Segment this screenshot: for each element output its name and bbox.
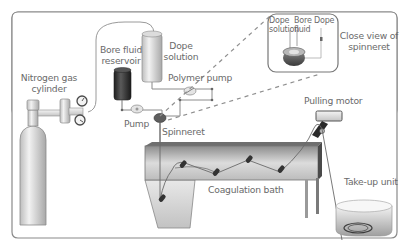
label-nitrogen-line1: Nitrogen gas [14,72,84,83]
bore-pump [131,105,143,113]
label-dope-solution: Dope solution [160,40,202,62]
label-dope-line1: Dope [160,40,202,51]
label-take-up-unit: Take-up unit [344,176,398,187]
label-close-view-line1: Close view of [338,30,400,41]
label-spinneret: Spinneret [162,126,205,137]
take-up-unit [336,200,392,236]
label-inset-dope-line1: Dope [269,16,295,25]
label-bore-line1: Bore fluid [98,44,144,55]
label-inset-dope-line2: solution [269,25,295,34]
label-polymer-pump: Polymer pump [168,72,232,83]
spinning-setup-diagram: Nitrogen gas cylinder Bore fluid reservo… [0,0,407,252]
label-inset-dope: Dope [314,16,334,25]
dope-solution-tank [142,31,162,89]
label-bore-line2: reservoir [98,55,144,66]
label-inset-dope-solution: Dope solution [269,16,295,34]
label-inset-bore-fluid: Bore fluid [294,16,314,34]
label-bore-fluid-reservoir: Bore fluid reservoir [98,44,144,66]
label-nitrogen-gas-cylinder: Nitrogen gas cylinder [14,72,84,94]
label-inset-bore-line1: Bore [294,16,314,25]
label-pump: Pump [124,118,149,129]
label-nitrogen-line2: cylinder [14,83,84,94]
label-coagulation-bath: Coagulation bath [208,184,284,195]
label-close-view-of-spinneret: Close view of spinneret [338,30,400,52]
label-pulling-motor: Pulling motor [304,95,362,106]
label-inset-bore-line2: fluid [294,25,314,34]
label-dope-line2: solution [160,51,202,62]
label-close-view-line2: spinneret [338,41,400,52]
